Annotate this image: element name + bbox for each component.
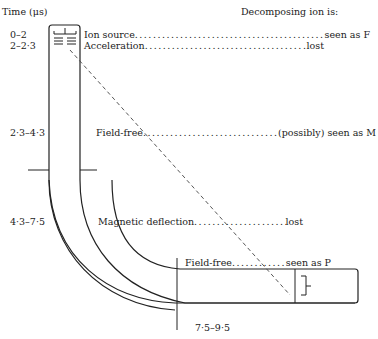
stage-row: Magnetic deflection ....................…	[98, 216, 303, 227]
decomposing-header: Decomposing ion is:	[241, 6, 338, 17]
stage-row: Field-free .............................…	[185, 257, 331, 268]
stage-fate: lost	[307, 40, 324, 51]
stage-row: Field-free .............................…	[96, 127, 376, 138]
stage-region: Magnetic deflection	[98, 216, 194, 227]
stage-fate: seen as F	[325, 29, 370, 40]
stage-time: 2·3–4·3	[10, 127, 45, 138]
ion-source-icon	[54, 28, 76, 44]
time-axis-label: Time (μs)	[2, 6, 48, 17]
stage-region: Ion source	[84, 29, 135, 40]
stage-time: 0–2	[10, 29, 27, 40]
stage-region: Field-free	[96, 127, 143, 138]
stage-fate: seen as P	[286, 257, 331, 268]
stage-row: Ion source .............................…	[84, 29, 370, 40]
stage-row: Acceleration ...........................…	[84, 40, 324, 51]
stage-time: 2–2·3	[10, 40, 36, 51]
stage-time: 4·3–7·5	[10, 216, 45, 227]
detector-icon	[295, 269, 311, 303]
stage-fate: lost	[286, 216, 303, 227]
stage-region: Acceleration	[84, 40, 145, 51]
stage-fate: (possibly) seen as M	[278, 127, 376, 138]
stage-region: Field-free	[185, 257, 232, 268]
stage-time: 7·5–9·5	[195, 322, 230, 333]
